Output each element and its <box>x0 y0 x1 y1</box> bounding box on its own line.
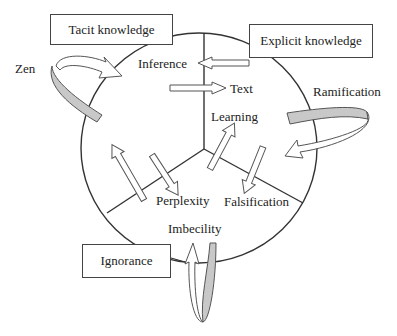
falsification-label: Falsification <box>224 195 289 208</box>
inference-arrow-icon <box>198 57 249 69</box>
knowledge-cycle-diagram: Tacit knowledge Explicit knowledge Ignor… <box>0 0 397 336</box>
perplexity-label: Perplexity <box>156 194 209 207</box>
tacit-knowledge-box: Tacit knowledge <box>50 14 173 45</box>
imbecility-label: Imbecility <box>168 222 221 235</box>
learning-label: Learning <box>211 110 258 123</box>
ignorance-box: Ignorance <box>82 244 171 278</box>
ramification-loop-arrow-icon <box>285 107 369 158</box>
upward-left-arrow-icon <box>106 141 150 203</box>
text-label: Text <box>230 82 253 95</box>
explicit-knowledge-box: Explicit knowledge <box>249 24 373 58</box>
inference-label: Inference <box>138 57 187 70</box>
text-arrow-icon <box>170 82 226 94</box>
zen-label: Zen <box>15 62 35 75</box>
ramification-label: Ramification <box>313 85 381 98</box>
perplexity-arrow-icon <box>146 151 184 199</box>
learning-arrow-icon <box>204 120 241 172</box>
zen-loop-arrow-icon <box>51 56 122 122</box>
imbecility-loop-arrow-icon <box>185 243 216 322</box>
